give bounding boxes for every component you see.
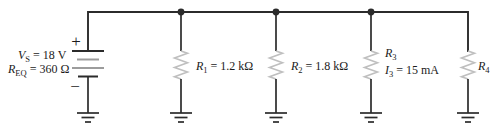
resistor-branch-r1: R1 = 1.2 kΩ <box>170 12 253 122</box>
polarity-plus-label: + <box>71 32 81 51</box>
resistor-zigzag <box>175 51 188 79</box>
parallel-circuit-diagram: + − VS = 18 V REQ = 360 Ω R1 = 1.2 kΩ R2… <box>0 0 503 137</box>
resistor-branch-r2: R2 = 1.8 kΩ <box>265 12 348 122</box>
resistor-zigzag <box>270 51 283 79</box>
polarity-minus-label: − <box>70 77 80 96</box>
ground-symbol <box>265 113 287 122</box>
resistor-branch-r3: R3 I3 = 15 mA <box>360 12 439 122</box>
resistor-label-r2: R2 = 1.8 kΩ <box>290 59 348 75</box>
source-req-label: REQ = 360 Ω <box>7 62 69 78</box>
resistor-label-r1: R1 = 1.2 kΩ <box>195 59 253 75</box>
resistor-branch-r4: R4 <box>457 51 490 122</box>
resistor-zigzag <box>365 51 378 79</box>
resistor-zigzag <box>462 51 475 79</box>
resistor-label-r3: R3 <box>384 46 397 62</box>
resistor-label-r4: R4 <box>477 59 490 75</box>
ground-symbol <box>457 113 479 122</box>
top-bus-wire <box>88 12 468 51</box>
voltage-source-branch: + − VS = 18 V REQ = 360 Ω <box>7 32 104 122</box>
resistor-current-label-r3: I3 = 15 mA <box>384 63 439 79</box>
ground-symbol <box>360 113 382 122</box>
ground-symbol <box>77 113 99 122</box>
ground-symbol <box>170 113 192 122</box>
